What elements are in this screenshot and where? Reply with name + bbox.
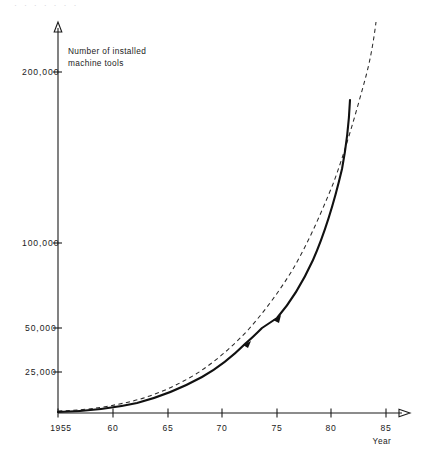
y-tick-label-100000: 100,000 (22, 238, 59, 248)
x-tick-label-1955: 1955 (50, 423, 72, 433)
x-tick-label-1980: 80 (326, 423, 337, 433)
x-tick-label-1965: 65 (163, 423, 174, 433)
axes-group (54, 22, 410, 417)
y-axis-annotation-line1: Number of installed (68, 46, 146, 56)
y-axis-annotation-line2: machine tools (68, 58, 124, 68)
y-tick-labels: 200,000 100,000 50,000 25,000 (22, 67, 59, 377)
y-tick-label-25000: 25,000 (25, 367, 57, 377)
y-tick-label-200000: 200,000 (22, 67, 59, 77)
series-actual-installed-machine-tools (58, 100, 350, 412)
x-tick-label-1970: 70 (217, 423, 228, 433)
x-tick-label-1960: 60 (108, 423, 119, 433)
machine-tools-line-chart: 200,000 100,000 50,000 25,000 1955 60 65… (0, 0, 426, 454)
x-tick-labels: 1955 60 65 70 75 80 85 (50, 423, 391, 433)
y-tick-label-50000: 50,000 (25, 323, 57, 333)
x-axis-title: Year (373, 436, 392, 446)
y-axis-annotation: Number of installed machine tools (68, 46, 146, 68)
x-tick-label-1975: 75 (272, 423, 283, 433)
x-tick-label-1985: 85 (381, 423, 392, 433)
chart-figure: · · · · · · · 200,000 100,000 50,000 25,… (0, 0, 426, 454)
